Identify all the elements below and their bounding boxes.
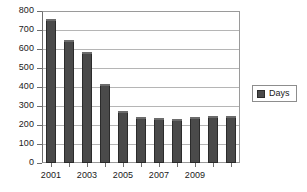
x-tick-label: 2003 bbox=[77, 170, 97, 180]
y-tick-label: 600 bbox=[19, 44, 34, 53]
x-tick-label: 2005 bbox=[113, 170, 133, 180]
bar bbox=[136, 117, 146, 163]
bar-body bbox=[136, 117, 146, 163]
legend-swatch-days bbox=[257, 90, 265, 98]
x-tick-label: 2009 bbox=[185, 170, 205, 180]
bar bbox=[154, 118, 164, 163]
bar-top-highlight bbox=[226, 116, 236, 118]
x-tick-mark bbox=[123, 163, 124, 167]
y-tick-label: 200 bbox=[19, 120, 34, 129]
bar bbox=[82, 52, 92, 163]
bars-layer bbox=[42, 11, 240, 163]
x-tick-mark bbox=[159, 163, 160, 167]
x-tick-mark bbox=[105, 163, 106, 167]
x-axis: 20012003200520072009 bbox=[42, 163, 240, 192]
x-tick-label: 2007 bbox=[149, 170, 169, 180]
bar-top-highlight bbox=[154, 118, 164, 120]
bar bbox=[46, 19, 56, 163]
chart-legend: Days bbox=[252, 85, 297, 102]
x-tick-mark bbox=[195, 163, 196, 167]
bar-body bbox=[100, 84, 110, 163]
x-tick-mark bbox=[141, 163, 142, 167]
bar bbox=[64, 40, 74, 164]
bar-body bbox=[154, 118, 164, 163]
bar bbox=[172, 119, 182, 163]
bar-top-highlight bbox=[64, 40, 74, 42]
bar-top-highlight bbox=[82, 52, 92, 54]
bar-top-highlight bbox=[208, 116, 218, 118]
bar-body bbox=[190, 117, 200, 163]
bar-body bbox=[172, 119, 182, 163]
y-tick-label: 0 bbox=[29, 158, 34, 167]
bar-top-highlight bbox=[46, 19, 56, 21]
bar-top-highlight bbox=[136, 117, 146, 119]
bar-chart: 0100200300400500600700800 20012003200520… bbox=[0, 0, 307, 192]
x-tick-mark bbox=[213, 163, 214, 167]
bar bbox=[226, 116, 236, 163]
bar-body bbox=[46, 19, 56, 163]
y-tick-label: 500 bbox=[19, 63, 34, 72]
bar bbox=[208, 116, 218, 163]
bar-body bbox=[82, 52, 92, 163]
y-axis: 0100200300400500600700800 bbox=[0, 0, 42, 192]
bar-body bbox=[118, 111, 128, 163]
bar-body bbox=[226, 116, 236, 163]
bar-body bbox=[64, 40, 74, 164]
x-tick-mark bbox=[87, 163, 88, 167]
bar bbox=[190, 117, 200, 163]
bar-top-highlight bbox=[118, 111, 128, 113]
x-tick-mark bbox=[51, 163, 52, 167]
legend-label-days: Days bbox=[269, 89, 290, 98]
bar bbox=[118, 111, 128, 163]
bar-top-highlight bbox=[190, 117, 200, 119]
bar-top-highlight bbox=[172, 119, 182, 121]
y-tick-label: 100 bbox=[19, 139, 34, 148]
x-tick-label: 2001 bbox=[41, 170, 61, 180]
y-tick-label: 300 bbox=[19, 101, 34, 110]
y-tick-label: 700 bbox=[19, 25, 34, 34]
x-tick-mark bbox=[177, 163, 178, 167]
y-tick-label: 800 bbox=[19, 6, 34, 15]
bar-top-highlight bbox=[100, 84, 110, 86]
bar bbox=[100, 84, 110, 163]
x-tick-mark bbox=[69, 163, 70, 167]
bar-body bbox=[208, 116, 218, 163]
y-tick-label: 400 bbox=[19, 82, 34, 91]
x-tick-mark bbox=[231, 163, 232, 167]
